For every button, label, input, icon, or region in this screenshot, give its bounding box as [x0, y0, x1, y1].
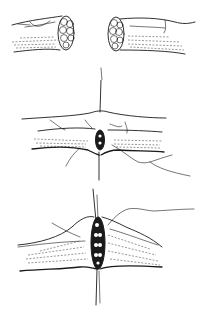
- panel-3-completed-repair: [0, 185, 207, 317]
- medical-illustration: [0, 0, 207, 317]
- panel-1-nerve-stumps: [0, 0, 207, 80]
- panel-2-stay-sutures: [0, 80, 207, 190]
